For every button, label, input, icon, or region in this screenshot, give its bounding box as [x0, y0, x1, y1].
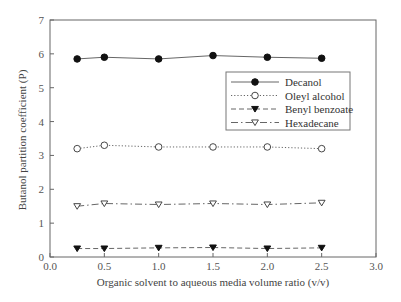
x-tick-label: 2.0 [260, 260, 274, 272]
open-circle-marker [74, 145, 81, 152]
legend-label: Decanol [285, 76, 322, 88]
filled-circle-marker [252, 79, 259, 86]
series-line [77, 56, 322, 59]
y-tick-label: 3 [39, 149, 45, 161]
open-triangle-marker [74, 204, 81, 210]
filled-circle-marker [210, 52, 217, 59]
x-tick-label: 1.5 [206, 260, 220, 272]
open-circle-marker [264, 144, 271, 151]
series-oleyl-alcohol [74, 142, 325, 152]
line-chart: 01234567 0.00.51.01.52.02.53.0 Organic s… [0, 0, 401, 302]
y-tick-label: 4 [39, 116, 45, 128]
y-tick-label: 6 [39, 48, 45, 60]
filled-circle-marker [264, 54, 271, 61]
y-tick-label: 2 [39, 183, 45, 195]
x-tick-label: 0.0 [43, 260, 57, 272]
y-axis-ticks: 01234567 [39, 14, 55, 263]
y-axis-label: Butanol partition coefficient (P) [16, 69, 29, 210]
series-line [77, 248, 322, 249]
filled-circle-marker [74, 56, 81, 63]
x-tick-label: 1.0 [152, 260, 166, 272]
y-tick-label: 7 [39, 14, 45, 26]
legend-label: Oleyl alcohol [285, 90, 345, 102]
x-tick-label: 3.0 [369, 260, 383, 272]
open-circle-marker [155, 144, 162, 151]
series-line [77, 145, 322, 148]
x-axis-label: Organic solvent to aqueous media volume … [97, 276, 330, 289]
series-benyl-benzoate [74, 245, 325, 252]
y-tick-label: 5 [39, 82, 45, 94]
series-decanol [74, 52, 325, 62]
x-axis-ticks: 0.00.51.01.52.02.53.0 [43, 253, 383, 272]
legend: DecanolOleyl alcoholBenyl benzoateHexade… [226, 72, 353, 130]
series-hexadecane [74, 200, 325, 209]
filled-circle-marker [155, 56, 162, 63]
filled-circle-marker [101, 54, 108, 61]
open-circle-marker [252, 92, 259, 99]
filled-circle-marker [318, 55, 325, 62]
series-line [77, 203, 322, 206]
open-circle-marker [210, 144, 217, 151]
x-tick-label: 2.5 [315, 260, 329, 272]
legend-label: Benyl benzoate [285, 103, 353, 115]
open-circle-marker [101, 142, 108, 149]
x-tick-label: 0.5 [97, 260, 111, 272]
open-circle-marker [318, 145, 325, 152]
legend-label: Hexadecane [285, 117, 339, 129]
y-tick-label: 1 [39, 217, 45, 229]
